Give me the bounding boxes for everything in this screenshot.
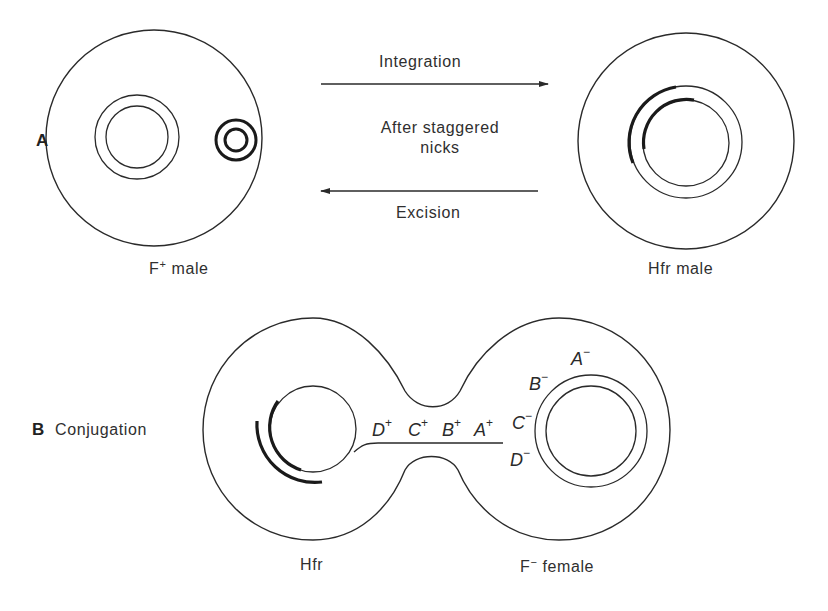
f-plus-male-label: F+ male (149, 258, 209, 278)
gene-d-plus: D+ (372, 418, 392, 441)
hfr-label: Hfr (300, 556, 323, 574)
f-plus-male-cell (46, 30, 262, 246)
cell-outline (203, 318, 670, 540)
hfr-male-cell (578, 33, 794, 249)
excision-label: Excision (396, 204, 460, 222)
transferred-dna-strand (354, 443, 503, 452)
conjugation-diagram (0, 0, 828, 611)
gene-a-plus: A+ (474, 418, 493, 441)
f-minus-female-label: F− female (520, 556, 594, 576)
gene-a-minus: A− (571, 347, 590, 370)
panel-b-title: B Conjugation (32, 420, 147, 440)
chromosome-outer-strand (95, 95, 179, 179)
staggered-nicks-label: After staggered nicks (360, 119, 520, 157)
chromosome-inner-strand (106, 106, 168, 168)
gene-c-minus: C− (512, 411, 532, 434)
hfr-male-label: Hfr male (648, 260, 713, 278)
panel-a-letter: A (36, 131, 49, 151)
f-plasmid-inner (225, 129, 247, 151)
f-plasmid-outer (216, 120, 256, 160)
gene-b-plus: B+ (442, 418, 461, 441)
integrated-f-inner-arc (643, 99, 694, 149)
gene-c-plus: C+ (408, 418, 428, 441)
gene-b-minus: B− (529, 372, 548, 395)
integrated-f-outer-arc (629, 87, 676, 163)
conjugating-cells (203, 318, 670, 540)
integration-label: Integration (379, 53, 461, 71)
gene-d-minus: D− (510, 448, 530, 471)
hfr-f-outer-arc (257, 421, 322, 482)
